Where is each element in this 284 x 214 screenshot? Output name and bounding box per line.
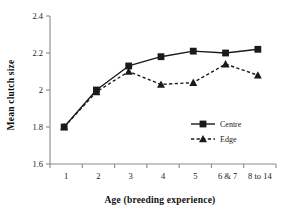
data-series bbox=[60, 46, 262, 130]
x-axis-tick-label: 3 bbox=[129, 171, 133, 181]
chart-figure: 1.61.822.22.4123456 & 78 to 14 CentreEdg… bbox=[0, 0, 284, 214]
y-axis-title: Mean clutch size bbox=[6, 60, 16, 131]
y-axis-tick-label: 2.2 bbox=[32, 48, 43, 58]
x-axis-tick-label: 6 & 7 bbox=[218, 171, 237, 181]
x-axis-title: Age (breeding experience) bbox=[105, 195, 216, 206]
data-point-triangle bbox=[222, 60, 230, 67]
legend-label-centre: Centre bbox=[220, 120, 242, 129]
x-axis-tick-label: 8 to 14 bbox=[248, 171, 272, 181]
chart-legend: CentreEdge bbox=[191, 120, 242, 144]
y-axis-tick-label: 2.4 bbox=[32, 11, 43, 21]
x-axis-tick-label: 4 bbox=[161, 171, 166, 181]
y-axis-tick-label: 1.6 bbox=[32, 159, 43, 169]
x-axis-tick-label: 5 bbox=[193, 171, 197, 181]
data-point-square bbox=[200, 121, 207, 128]
series-line-edge bbox=[64, 64, 258, 127]
data-point-square bbox=[254, 46, 261, 53]
x-axis-tick-label: 1 bbox=[64, 171, 68, 181]
data-point-triangle bbox=[254, 71, 262, 78]
legend-label-edge: Edge bbox=[220, 135, 237, 144]
axes: 1.61.822.22.4123456 & 78 to 14 bbox=[32, 11, 276, 181]
data-point-square bbox=[190, 48, 197, 55]
data-point-square bbox=[158, 53, 165, 60]
data-point-square bbox=[222, 50, 229, 57]
line-chart: 1.61.822.22.4123456 & 78 to 14 CentreEdg… bbox=[0, 0, 284, 214]
y-axis-tick-label: 1.8 bbox=[32, 122, 43, 132]
x-axis-tick-label: 2 bbox=[96, 171, 100, 181]
y-axis-tick-label: 2 bbox=[39, 85, 43, 95]
data-point-triangle bbox=[189, 79, 197, 86]
data-point-triangle bbox=[199, 135, 207, 142]
